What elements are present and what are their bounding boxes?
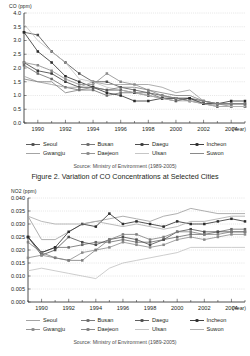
legend-row: Gwangju Daejeon Ulsan Suwon	[26, 326, 244, 333]
legend-swatch-seoul	[26, 317, 40, 324]
svg-text:1994: 1994	[87, 126, 99, 132]
svg-text:0.025: 0.025	[11, 234, 25, 240]
legend-item-daejeon[interactable]: Daejeon	[81, 150, 136, 157]
legend-label-gwangju: Gwangju	[43, 326, 65, 333]
legend-no2: Seoul Busan Daegu Incheon Gwangju D	[26, 317, 244, 333]
svg-text:2000: 2000	[171, 305, 183, 311]
svg-text:0.0: 0.0	[13, 120, 21, 126]
legend-item-suwon[interactable]: Suwon	[190, 326, 245, 333]
legend-row: Seoul Busan Daegu Incheon	[26, 141, 244, 148]
figure-no2: NO2 (ppm) 0.0400.0350.0300.0250.0200.015…	[0, 186, 250, 356]
svg-text:1994: 1994	[90, 305, 102, 311]
legend-label-busan: Busan	[98, 141, 114, 148]
legend-row: Seoul Busan Daegu Incheon	[26, 317, 244, 324]
legend-item-seoul[interactable]: Seoul	[26, 317, 81, 324]
legend-label-ulsan: Ulsan	[152, 150, 166, 157]
svg-text:0.020: 0.020	[11, 247, 25, 253]
svg-text:1.0: 1.0	[13, 92, 21, 98]
legend-label-busan: Busan	[98, 317, 114, 324]
svg-text:2002: 2002	[198, 305, 210, 311]
svg-text:1996: 1996	[117, 305, 129, 311]
legend-label-daejeon: Daejeon	[98, 326, 119, 333]
legend-label-daegu: Daegu	[152, 141, 168, 148]
svg-text:1996: 1996	[114, 126, 126, 132]
legend-swatch-gwangju	[26, 326, 40, 333]
source-note-co: Source: Ministry of Environment (1989-20…	[0, 163, 250, 169]
legend-swatch-incheon	[190, 141, 204, 148]
svg-text:1992: 1992	[59, 126, 71, 132]
legend-item-ulsan[interactable]: Ulsan	[135, 326, 190, 333]
legend-label-incheon: Incheon	[207, 141, 227, 148]
legend-item-gwangju[interactable]: Gwangju	[26, 326, 81, 333]
svg-text:1992: 1992	[62, 305, 74, 311]
legend-item-busan[interactable]: Busan	[81, 141, 136, 148]
svg-text:1998: 1998	[142, 126, 154, 132]
legend-item-gwangju[interactable]: Gwangju	[26, 150, 81, 157]
svg-text:0.035: 0.035	[11, 208, 25, 214]
svg-text:0.040: 0.040	[11, 195, 25, 201]
legend-swatch-ulsan	[135, 326, 149, 333]
svg-text:0.5: 0.5	[13, 106, 21, 112]
chart-plot-no2: 0.0400.0350.0300.0250.0200.0150.0100.005…	[0, 194, 250, 316]
svg-text:1.5: 1.5	[13, 79, 21, 85]
legend-swatch-busan	[81, 141, 95, 148]
svg-text:3.5: 3.5	[13, 24, 21, 30]
svg-text:0.015: 0.015	[11, 260, 25, 266]
svg-text:4.0: 4.0	[13, 10, 21, 16]
svg-text:2000: 2000	[170, 126, 182, 132]
legend-item-seoul[interactable]: Seoul	[26, 141, 81, 148]
figure-co: CO (ppm) 4.03.53.02.52.01.51.00.50.01990…	[0, 0, 250, 186]
svg-text:0.010: 0.010	[11, 273, 25, 279]
legend-swatch-daegu	[135, 141, 149, 148]
svg-text:3.0: 3.0	[13, 37, 21, 43]
svg-text:1998: 1998	[144, 305, 156, 311]
legend-item-suwon[interactable]: Suwon	[190, 150, 245, 157]
legend-label-daejeon: Daejeon	[98, 150, 119, 157]
figure-caption-co: Figure 2. Variation of CO Concentrations…	[0, 172, 250, 181]
svg-text:2002: 2002	[197, 126, 209, 132]
svg-text:2.5: 2.5	[13, 51, 21, 57]
legend-label-daegu: Daegu	[152, 317, 168, 324]
legend-swatch-ulsan	[135, 150, 149, 157]
legend-item-incheon[interactable]: Incheon	[190, 141, 245, 148]
source-note-no2: Source: Ministry of Environment (1989-20…	[0, 339, 250, 345]
legend-swatch-suwon	[190, 150, 204, 157]
legend-label-suwon: Suwon	[207, 326, 224, 333]
legend-label-seoul: Seoul	[43, 317, 57, 324]
chart-svg-co: 4.03.53.02.52.01.51.00.50.01990199219941…	[0, 9, 250, 137]
legend-item-incheon[interactable]: Incheon	[190, 317, 245, 324]
legend-item-busan[interactable]: Busan	[81, 317, 136, 324]
legend-item-daegu[interactable]: Daegu	[135, 317, 190, 324]
legend-label-ulsan: Ulsan	[152, 326, 166, 333]
legend-swatch-gwangju	[26, 150, 40, 157]
svg-text:0.000: 0.000	[11, 299, 25, 305]
legend-item-daejeon[interactable]: Daejeon	[81, 326, 136, 333]
legend-swatch-daejeon	[81, 326, 95, 333]
svg-text:2.0: 2.0	[13, 65, 21, 71]
legend-label-seoul: Seoul	[43, 141, 57, 148]
legend-label-incheon: Incheon	[207, 317, 227, 324]
legend-swatch-busan	[81, 317, 95, 324]
legend-swatch-suwon	[190, 326, 204, 333]
legend-swatch-seoul	[26, 141, 40, 148]
legend-row: Gwangju Daejeon Ulsan Suwon	[26, 150, 244, 157]
chart-plot-co: 4.03.53.02.52.01.51.00.50.01990199219941…	[0, 9, 250, 137]
legend-item-daegu[interactable]: Daegu	[135, 141, 190, 148]
legend-item-ulsan[interactable]: Ulsan	[135, 150, 190, 157]
legend-co: Seoul Busan Daegu Incheon Gwangju D	[26, 141, 244, 157]
svg-text:1990: 1990	[32, 126, 44, 132]
svg-text:(Year): (Year)	[232, 305, 246, 311]
chart-svg-no2: 0.0400.0350.0300.0250.0200.0150.0100.005…	[0, 194, 250, 316]
svg-text:0.005: 0.005	[11, 286, 25, 292]
svg-text:1990: 1990	[35, 305, 47, 311]
svg-text:0.030: 0.030	[11, 221, 25, 227]
legend-label-gwangju: Gwangju	[43, 150, 65, 157]
svg-text:(Year): (Year)	[232, 126, 246, 132]
legend-swatch-daejeon	[81, 150, 95, 157]
legend-label-suwon: Suwon	[207, 150, 224, 157]
legend-swatch-incheon	[190, 317, 204, 324]
legend-swatch-daegu	[135, 317, 149, 324]
